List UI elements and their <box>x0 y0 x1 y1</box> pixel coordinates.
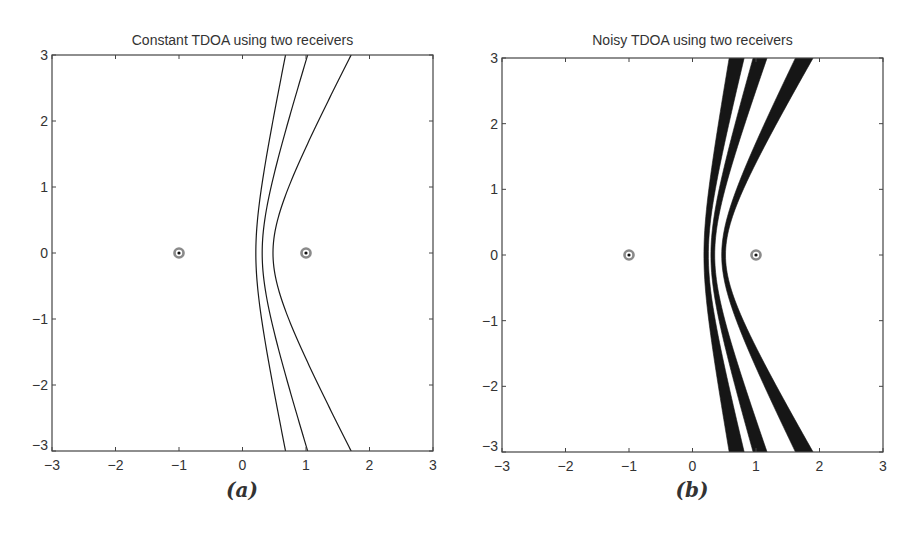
y-tick-label: 1 <box>490 181 498 197</box>
x-tick-label: −2 <box>558 458 574 474</box>
y-tick-label: −3 <box>482 438 498 454</box>
receiver-icon-2 <box>750 249 762 261</box>
y-tick-label: −2 <box>482 378 498 394</box>
x-tick-label: 0 <box>689 458 697 474</box>
x-tick-label: −1 <box>621 458 637 474</box>
y-tick-label: 0 <box>490 247 498 263</box>
x-tick-label: 2 <box>816 458 824 474</box>
x-tick-label: 3 <box>879 458 887 474</box>
plot-area-b: −3−2−10123−3−2−10123 <box>0 0 913 539</box>
receiver-icon-1 <box>623 249 635 261</box>
band-3 <box>722 45 821 465</box>
axes-frame <box>502 58 883 452</box>
band-2 <box>711 45 772 465</box>
caption-b: (b) <box>642 478 742 502</box>
x-tick-label: 1 <box>752 458 760 474</box>
x-tick-label: −3 <box>494 458 510 474</box>
y-tick-label: 3 <box>490 50 498 66</box>
y-tick-label: −1 <box>482 313 498 329</box>
y-tick-label: 2 <box>490 116 498 132</box>
series-group <box>704 45 821 465</box>
